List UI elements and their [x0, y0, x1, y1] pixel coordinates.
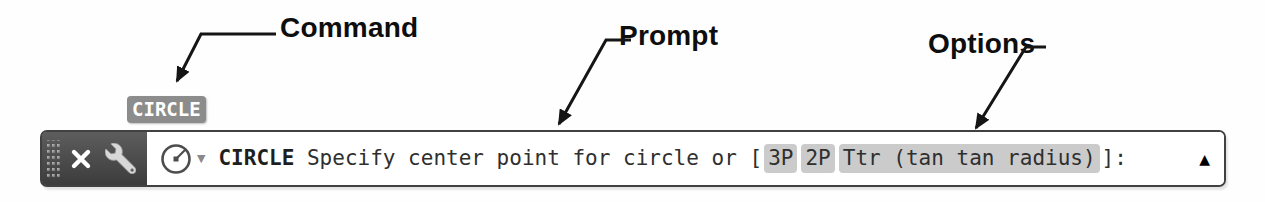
command-line-bar: ▼ CIRCLE Specify center point for circle…: [40, 130, 1226, 187]
command-arrow: [177, 34, 276, 81]
option-2p[interactable]: 2P: [801, 144, 834, 172]
drag-handle-icon[interactable]: [47, 138, 61, 180]
wrench-icon[interactable]: [105, 143, 136, 174]
prompt-arrow: [559, 40, 631, 124]
recent-commands-icon[interactable]: [159, 142, 193, 176]
prompt-message: Specify center point for circle or: [294, 146, 749, 170]
options-arrow: [976, 47, 1046, 128]
close-icon[interactable]: [70, 148, 92, 170]
command-line-controls: [42, 132, 147, 185]
command-name: CIRCLE: [218, 146, 294, 170]
command-input-area[interactable]: ▼ CIRCLE Specify center point for circle…: [147, 132, 1224, 185]
option-ttr[interactable]: Ttr (tan tan radius): [839, 144, 1100, 172]
prompt-annotation-label: Prompt: [619, 21, 718, 51]
active-command-badge: CIRCLE: [127, 96, 206, 123]
options-bracket-open: [: [749, 146, 762, 170]
autocad-command-line-figure: Command Prompt Options CIRCLE: [0, 0, 1265, 202]
dropdown-arrow-icon[interactable]: ▼: [197, 152, 205, 165]
option-3p[interactable]: 3P: [764, 144, 797, 172]
command-prompt-text: CIRCLE Specify center point for circle o…: [218, 144, 1126, 172]
expand-history-icon[interactable]: ▲: [1189, 151, 1210, 167]
options-bracket-close: ]:: [1102, 146, 1127, 170]
command-annotation-label: Command: [280, 13, 418, 43]
options-annotation-label: Options: [928, 29, 1035, 59]
